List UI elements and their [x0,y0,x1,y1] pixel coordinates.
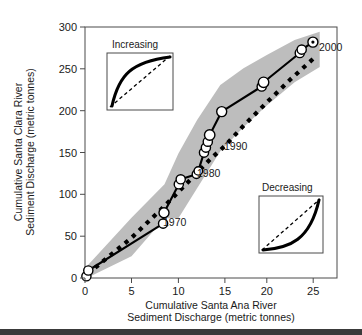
data-point [176,175,185,184]
y-axis-ticks [80,27,85,278]
x-tick-label: 10 [172,285,184,297]
data-point [205,130,215,140]
x-tick-label: 15 [219,285,231,297]
y-tick-label: 300 [59,21,77,33]
y-axis-tick-labels: 300 250 200 150 100 50 0 [59,21,77,284]
data-point [217,107,227,117]
y-tick-label: 200 [59,105,77,117]
y-tick-label: 50 [65,230,77,242]
decade-label-1970: 1970 [163,216,187,228]
inset-increasing-title: Increasing [112,39,158,50]
x-axis-tick-labels: 0 5 10 15 20 25 [82,285,319,297]
y-tick-label: 0 [71,272,77,284]
x-axis-title: Cumulative Santa Ana River Sediment Disc… [127,299,294,323]
final-point-dot [311,41,314,44]
y-tick-label: 250 [59,63,77,75]
decade-label-1980: 1980 [197,167,221,179]
data-point [84,266,93,275]
y-axis-title-line2: Sediment Discharge (metric tonnes) [24,68,36,235]
y-axis-title: Cumulative Santa Clara River Sediment Di… [12,68,36,235]
decade-label-1990: 1990 [224,140,248,152]
x-tick-label: 0 [82,285,88,297]
data-point [297,45,306,54]
inset-decreasing-title: Decreasing [262,182,313,193]
y-tick-label: 150 [59,147,77,159]
x-tick-label: 5 [128,285,134,297]
x-tick-label: 20 [261,285,273,297]
figure-root: 300 250 200 150 100 50 0 0 5 10 15 20 25 [0,0,362,335]
x-axis-title-line2: Sediment Discharge (metric tonnes) [127,311,294,323]
y-axis-title-line1: Cumulative Santa Clara River [12,82,24,221]
data-point [258,77,268,87]
footer-bar [0,329,362,335]
double-mass-curve-chart: 300 250 200 150 100 50 0 0 5 10 15 20 25 [0,0,362,335]
x-tick-label: 25 [307,285,319,297]
y-tick-label: 100 [59,188,77,200]
decade-label-2000: 2000 [319,41,343,53]
x-axis-ticks [85,278,313,283]
x-axis-title-line1: Cumulative Santa Ana River [145,299,277,311]
